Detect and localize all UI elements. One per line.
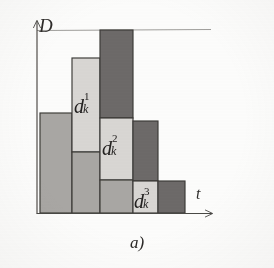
bar-5 bbox=[158, 181, 185, 213]
bar-label-d1: d1k bbox=[74, 93, 93, 116]
bar-3 bbox=[100, 30, 133, 213]
bar-label-d3-subscript: k bbox=[143, 198, 148, 210]
bar-label-d3: d3k bbox=[134, 188, 153, 211]
x-axis-label: t bbox=[196, 186, 200, 202]
bar-1 bbox=[40, 113, 72, 213]
bar-label-d2-scripts: 2k bbox=[112, 135, 121, 155]
bar-2-segment-medium bbox=[72, 152, 100, 213]
bar-4-segment-dark bbox=[133, 121, 158, 181]
bar-label-d3-superscript: 3 bbox=[144, 186, 150, 197]
bar-label-d1-subscript: k bbox=[83, 103, 88, 115]
figure-container: D t d1k d2k d3k a) bbox=[0, 0, 274, 268]
bar-label-d1-superscript: 1 bbox=[84, 91, 90, 102]
bar-label-d2: d2k bbox=[102, 135, 121, 158]
bar-2 bbox=[72, 58, 100, 213]
bar-label-d2-subscript: k bbox=[111, 145, 116, 157]
bar-1-segment-medium bbox=[40, 113, 72, 213]
bar-3-segment-dark bbox=[100, 30, 133, 118]
y-axis-label: D bbox=[39, 16, 53, 35]
bar-3-segment-medium bbox=[100, 180, 133, 213]
bar-5-segment-dark bbox=[158, 181, 185, 213]
bars-group bbox=[40, 30, 185, 213]
bar-chart-plot bbox=[0, 0, 274, 268]
bar-label-d1-scripts: 1k bbox=[84, 93, 93, 113]
figure-caption: a) bbox=[0, 233, 274, 253]
bar-label-d3-scripts: 3k bbox=[144, 188, 153, 208]
bar-label-d2-superscript: 2 bbox=[112, 133, 118, 144]
